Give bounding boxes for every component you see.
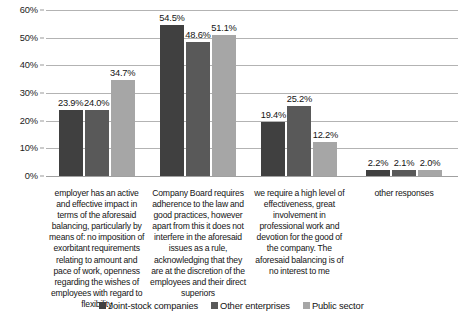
bar-group: 19.4%25.2%12.2%	[249, 10, 350, 176]
bar-value-label: 48.6%	[185, 30, 210, 41]
bar[interactable]: 34.7%	[111, 80, 135, 176]
y-axis-tick-mark	[40, 120, 44, 121]
category-label: employer has an active and effective imp…	[46, 186, 147, 310]
bar-slot: 23.9%	[59, 10, 83, 176]
bar-slot: 51.1%	[212, 10, 236, 176]
bar[interactable]: 24.0%	[85, 110, 109, 176]
y-axis-tick-label: 60%	[20, 5, 38, 15]
bar-slot: 2.2%	[366, 10, 390, 176]
legend-label: Other enterprises	[220, 300, 290, 311]
bar-value-label: 51.1%	[211, 23, 236, 34]
bar-slot: 24.0%	[85, 10, 109, 176]
y-axis-tick-mark	[40, 37, 44, 38]
plot-region: 0%10%20%30%40%50%60% 23.9%24.0%34.7%54.5…	[0, 0, 463, 186]
legend-swatch-icon	[211, 302, 218, 309]
legend-swatch-icon	[99, 302, 106, 309]
bar[interactable]: 2.2%	[366, 170, 390, 176]
bar-value-label: 2.1%	[394, 158, 414, 169]
bar-group: 2.2%2.1%2.0%	[350, 10, 458, 176]
legend-item[interactable]: Public sector	[303, 300, 364, 311]
y-axis-tick-label: 10%	[20, 143, 38, 153]
bar-slot: 25.2%	[287, 10, 311, 176]
bar-value-label: 2.2%	[368, 158, 388, 169]
legend-item[interactable]: Joint-stock companies	[99, 300, 198, 311]
bar-group: 54.5%48.6%51.1%	[147, 10, 248, 176]
legend-label: Joint-stock companies	[108, 300, 198, 311]
y-axis-tick-label: 50%	[20, 33, 38, 43]
bar-value-label: 12.2%	[313, 130, 338, 141]
bar-value-label: 25.2%	[287, 94, 312, 105]
bar[interactable]: 2.0%	[418, 170, 442, 176]
bar[interactable]: 23.9%	[59, 110, 83, 176]
plot-area: 23.9%24.0%34.7%54.5%48.6%51.1%19.4%25.2%…	[46, 10, 458, 176]
bar[interactable]: 51.1%	[212, 35, 236, 176]
bar[interactable]: 54.5%	[160, 25, 184, 176]
y-axis-tick-mark	[40, 10, 44, 11]
y-axis-tick-label: 0%	[25, 171, 38, 181]
y-axis-tick-mark	[40, 148, 44, 149]
bar-value-label: 23.9%	[58, 98, 83, 109]
y-axis-tick-label: 30%	[20, 88, 38, 98]
bar-group: 23.9%24.0%34.7%	[46, 10, 147, 176]
y-axis-tick-label: 40%	[20, 60, 38, 70]
legend-swatch-icon	[303, 302, 310, 309]
legend-item[interactable]: Other enterprises	[211, 300, 290, 311]
bar-slot: 2.1%	[392, 10, 416, 176]
bar-groups: 23.9%24.0%34.7%54.5%48.6%51.1%19.4%25.2%…	[46, 10, 458, 176]
y-axis-tick-mark	[40, 176, 44, 177]
bar-slot: 19.4%	[261, 10, 285, 176]
y-axis-tick-mark	[40, 93, 44, 94]
category-label: Company Board requires adherence to the …	[147, 186, 248, 299]
category-label: other responses	[350, 186, 458, 199]
axis-baseline	[46, 176, 458, 177]
chart-legend: Joint-stock companiesOther enterprisesPu…	[0, 300, 463, 311]
bar-slot: 48.6%	[186, 10, 210, 176]
bar-value-label: 34.7%	[110, 68, 135, 79]
bar-chart: 0%10%20%30%40%50%60% 23.9%24.0%34.7%54.5…	[0, 0, 463, 322]
bar[interactable]: 12.2%	[313, 142, 337, 176]
bar[interactable]: 2.1%	[392, 170, 416, 176]
bar-value-label: 54.5%	[159, 13, 184, 24]
bar-slot: 12.2%	[313, 10, 337, 176]
y-axis: 0%10%20%30%40%50%60%	[0, 0, 44, 186]
legend-label: Public sector	[312, 300, 364, 311]
bar-slot: 34.7%	[111, 10, 135, 176]
bar-slot: 2.0%	[418, 10, 442, 176]
y-axis-tick-mark	[40, 65, 44, 66]
y-axis-tick-label: 20%	[20, 116, 38, 126]
bar[interactable]: 19.4%	[261, 122, 285, 176]
bar[interactable]: 25.2%	[287, 106, 311, 176]
bar-value-label: 2.0%	[420, 158, 440, 169]
bar-value-label: 24.0%	[84, 98, 109, 109]
category-labels: employer has an active and effective imp…	[46, 186, 458, 310]
bar[interactable]: 48.6%	[186, 42, 210, 176]
category-label: we require a high level of effectiveness…	[249, 186, 350, 277]
bar-slot: 54.5%	[160, 10, 184, 176]
bar-value-label: 19.4%	[261, 110, 286, 121]
